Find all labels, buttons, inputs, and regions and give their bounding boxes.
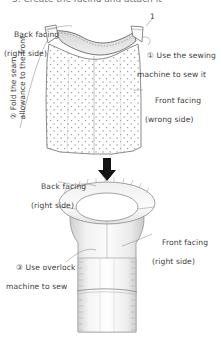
label-front-facing-step1-line1: Front facing [155, 96, 201, 105]
callout-sew-text1: Use the sewing [154, 51, 216, 60]
callout-fold-line1: ② Fold the seam [9, 23, 18, 119]
callout-fold-text1: Fold the seam [9, 57, 18, 113]
label-back-facing-step2-line1: Back facing [41, 182, 86, 191]
callout-fold-seam-allowance: ② Fold the seam allowance to the front. [9, 23, 28, 119]
label-seam-mark: 1 [150, 12, 155, 22]
label-front-facing-step1-line2: (wrong side) [145, 115, 201, 125]
callout-sew-line1: ① Use the sewing [147, 51, 216, 60]
callout-sew-number: ① [147, 51, 154, 60]
label-front-facing-step2: Front facing (right side) [152, 228, 208, 286]
label-back-facing-step2-line2: (right side) [31, 201, 86, 211]
garment-body [46, 44, 141, 154]
callout-overlock-machine: ③ Use overlock machine to sew [6, 253, 76, 311]
callout-fold-line2: allowance to the front. [18, 23, 27, 119]
label-back-facing-step2: Back facing (right side) [31, 172, 86, 230]
label-front-facing-step1: Front facing (wrong side) [145, 86, 201, 144]
instruction-page: 3. Create the facing and attach it [0, 0, 221, 344]
callout-overlock-number: ③ [16, 263, 23, 272]
label-front-facing-step2-line1: Front facing [162, 238, 208, 247]
label-front-facing-step2-line2: (right side) [152, 257, 208, 267]
down-arrow-icon [98, 158, 116, 181]
tube-lower-section [78, 258, 136, 332]
callout-overlock-line1: ③ Use overlock [16, 263, 76, 272]
callout-fold-number: ② [9, 113, 18, 120]
callout-overlock-line2: machine to sew [6, 282, 76, 292]
callout-overlock-text1: Use overlock [23, 263, 76, 272]
callout-sew-line2: machine to sew it [137, 70, 216, 80]
